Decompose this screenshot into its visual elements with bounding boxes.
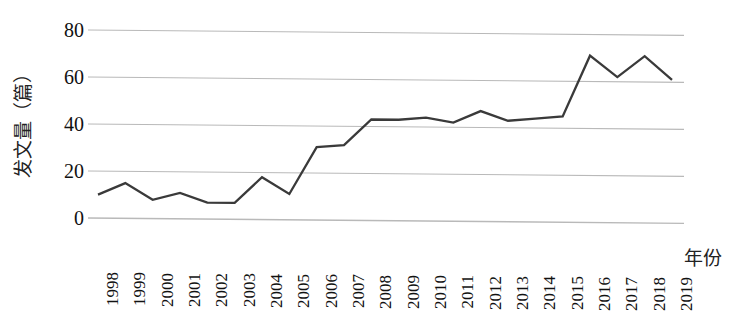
y-tick-label-80: 80 (42, 20, 84, 40)
x-tick-label-2014: 2014 (541, 276, 558, 310)
y-axis-title-label: 发文量（篇） (8, 63, 35, 177)
x-tick-label-2015: 2015 (569, 276, 586, 310)
x-tick-label-2007: 2007 (350, 274, 367, 308)
x-tick-label-2012: 2012 (487, 276, 504, 310)
x-tick-label-2002: 2002 (213, 273, 230, 307)
x-tick-label-2006: 2006 (323, 274, 340, 308)
x-tick-label-2003: 2003 (241, 273, 258, 307)
x-axis-title: 年份 (684, 243, 722, 270)
y-tick-label-40: 40 (42, 114, 84, 134)
y-axis-title: 发文量（篇） (8, 30, 34, 210)
x-tick-label-2016: 2016 (596, 277, 613, 311)
x-tick-label-2001: 2001 (186, 273, 203, 307)
x-tick-label-2017: 2017 (623, 277, 640, 311)
x-tick-label-2011: 2011 (459, 275, 476, 308)
x-tick-label-2004: 2004 (268, 274, 285, 308)
y-tick-label-20: 20 (42, 161, 84, 181)
data-series-line (88, 18, 684, 224)
x-tick-label-2019: 2019 (678, 277, 695, 311)
x-tick-label-2008: 2008 (377, 275, 394, 309)
x-tick-label-2013: 2013 (514, 276, 531, 310)
x-tick-label-2009: 2009 (405, 275, 422, 309)
y-tick-label-60: 60 (42, 67, 84, 87)
x-tick-label-1999: 1999 (131, 272, 148, 306)
x-tick-label-1998: 1998 (104, 272, 121, 306)
x-axis-tick-labels: 1998199920002001200220032004200520062007… (88, 226, 684, 286)
x-tick-label-2010: 2010 (432, 275, 449, 309)
plot-area (88, 18, 684, 224)
x-tick-label-2018: 2018 (651, 277, 668, 311)
y-tick-label-0: 0 (42, 208, 84, 228)
x-tick-label-2005: 2005 (295, 274, 312, 308)
y-axis-tick-labels: 020406080 (36, 0, 84, 290)
series-polyline (98, 56, 672, 203)
x-tick-label-2000: 2000 (159, 273, 176, 307)
